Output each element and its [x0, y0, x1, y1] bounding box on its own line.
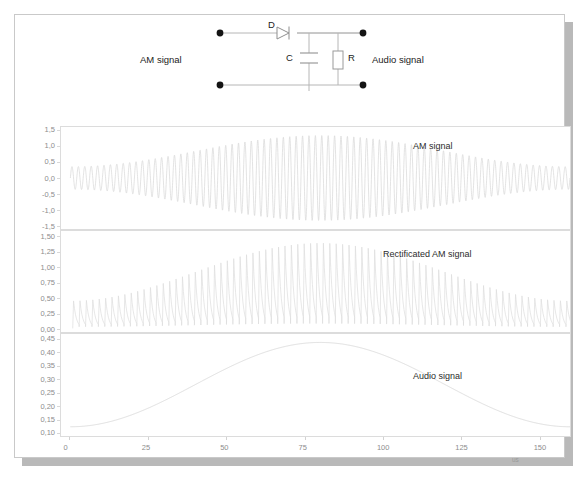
node-in-top [217, 30, 224, 37]
y-tick-label: 0,35 [23, 361, 55, 370]
y-tick-label: 0,5 [23, 157, 55, 166]
x-tick-label: 100 [377, 443, 390, 452]
y-tick-mark [57, 210, 60, 211]
x-tick-label: 25 [142, 443, 150, 452]
y-tick-label: 1,00 [23, 263, 55, 272]
circuit-diagram: D C R AM signal Audio signal [15, 15, 564, 109]
y-tick-mark [57, 329, 60, 330]
y-tick-mark [57, 146, 60, 147]
x-tick-label: 75 [299, 443, 307, 452]
y-tick-mark [57, 130, 60, 131]
component-label-D: D [268, 19, 275, 30]
y-tick-label: 0,25 [23, 388, 55, 397]
component-label-C: C [286, 52, 293, 63]
x-tick-label: 150 [534, 443, 547, 452]
y-tick-label: 0,00 [23, 325, 55, 334]
port-label-am-input: AM signal [140, 54, 182, 65]
y-tick-label: 1,5 [23, 125, 55, 134]
y-tick-mark [57, 162, 60, 163]
y-tick-label: 0,15 [23, 415, 55, 424]
plot-title-rectificated: Rectificated AM signal [383, 249, 472, 259]
y-tick-label: 1,25 [23, 247, 55, 256]
capacitor-icon [300, 53, 318, 63]
y-tick-label: 0,50 [23, 294, 55, 303]
y-tick-mark [57, 236, 60, 237]
plot-title-am-signal: AM signal [413, 141, 453, 151]
node-in-bottom [217, 82, 224, 89]
y-tick-label: 1,0 [23, 141, 55, 150]
y-tick-mark [57, 283, 60, 284]
x-tick-mark [383, 437, 384, 440]
y-tick-label: 1,50 [23, 232, 55, 241]
node-out-bottom [360, 82, 367, 89]
x-tick-label: 125 [455, 443, 468, 452]
am-signal-trace [61, 127, 570, 229]
y-tick-mark [57, 226, 60, 227]
audio-signal-trace [61, 334, 570, 436]
y-tick-label: -1,0 [23, 206, 55, 215]
y-tick-mark [57, 379, 60, 380]
plot-panel-rectificated [60, 230, 571, 333]
y-tick-label: 0,20 [23, 402, 55, 411]
y-tick-mark [57, 252, 60, 253]
x-tick-label: 0 [63, 443, 67, 452]
y-tick-label: 0,45 [23, 334, 55, 343]
y-tick-mark [57, 393, 60, 394]
x-tick-mark [148, 437, 149, 440]
y-tick-label: 0,0 [23, 174, 55, 183]
component-label-R: R [348, 52, 355, 63]
y-tick-mark [57, 339, 60, 340]
y-tick-label: 0,10 [23, 428, 55, 437]
y-tick-mark [57, 178, 60, 179]
x-tick-mark [461, 437, 462, 440]
y-tick-mark [57, 420, 60, 421]
x-tick-mark [226, 437, 227, 440]
x-tick-mark [305, 437, 306, 440]
plot-panel-audio-signal [60, 333, 571, 437]
y-tick-label: 0,25 [23, 309, 55, 318]
resistor-icon [333, 51, 343, 69]
y-tick-label: -1,5 [23, 222, 55, 231]
y-tick-label: 0,30 [23, 375, 55, 384]
plot-title-audio-signal: Audio signal [413, 371, 462, 381]
x-tick-mark [69, 437, 70, 440]
y-tick-label: -0,5 [23, 190, 55, 199]
y-tick-label: 0,40 [23, 348, 55, 357]
x-axis-unit-label: us [512, 456, 519, 463]
node-out-top [360, 30, 367, 37]
y-tick-label: 0,75 [23, 278, 55, 287]
y-tick-mark [57, 433, 60, 434]
y-tick-mark [57, 298, 60, 299]
plot-panel-am-signal [60, 126, 571, 230]
x-tick-mark [540, 437, 541, 440]
y-tick-mark [57, 314, 60, 315]
y-tick-mark [57, 406, 60, 407]
y-tick-mark [57, 352, 60, 353]
figure-sheet: D C R AM signal Audio signal AM signal R… [14, 14, 565, 458]
rectificated-trace [61, 231, 570, 332]
y-tick-mark [57, 366, 60, 367]
port-label-audio-output: Audio signal [372, 54, 424, 65]
y-tick-mark [57, 194, 60, 195]
y-tick-mark [57, 267, 60, 268]
plots-region: AM signal Rectificated AM signal Audio s… [15, 109, 564, 458]
x-tick-label: 50 [220, 443, 228, 452]
diode-icon [277, 27, 289, 40]
